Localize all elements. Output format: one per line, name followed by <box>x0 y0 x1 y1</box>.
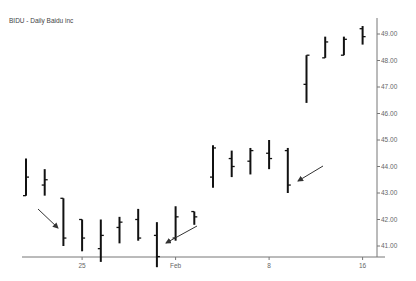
x-tick-label: 16 <box>359 262 367 269</box>
price-bars <box>23 26 366 267</box>
y-tick-label: 46.00 <box>381 110 398 117</box>
arrow-annotation <box>38 209 58 228</box>
arrow-annotation <box>298 166 323 181</box>
y-tick-label: 48.00 <box>381 57 398 64</box>
ohlc-bar <box>285 148 291 193</box>
axes <box>22 18 385 257</box>
y-tick-label: 42.00 <box>381 216 398 223</box>
ohlc-bar <box>173 206 179 240</box>
annotation-arrows <box>38 166 323 243</box>
y-tick-label: 44.00 <box>381 163 398 170</box>
y-tick-label: 43.00 <box>381 189 398 196</box>
ohlc-bar <box>42 169 48 196</box>
ohlc-bar <box>322 37 328 58</box>
arrow-annotation <box>166 226 197 243</box>
ohlc-bar <box>229 151 235 178</box>
y-tick-label: 41.00 <box>381 242 398 249</box>
ohlc-bar <box>23 159 29 196</box>
y-axis-ticks: 41.0042.0043.0044.0045.0046.0047.0048.00… <box>377 30 398 249</box>
ohlc-bar <box>135 209 141 241</box>
y-tick-label: 45.00 <box>381 136 398 143</box>
ohlc-bar <box>79 220 85 252</box>
ohlc-bar <box>60 198 66 246</box>
y-tick-label: 49.00 <box>381 30 398 37</box>
x-axis-ticks: 25Feb816 <box>78 257 366 269</box>
ohlc-bar <box>154 222 160 267</box>
ohlc-chart: 41.0042.0043.0044.0045.0046.0047.0048.00… <box>0 0 416 281</box>
x-tick-label: Feb <box>170 262 182 269</box>
ohlc-bar <box>98 220 104 262</box>
x-tick-label: 8 <box>267 262 271 269</box>
ohlc-bar <box>191 212 197 225</box>
ohlc-bar <box>210 145 216 187</box>
y-tick-label: 47.00 <box>381 83 398 90</box>
ohlc-bar <box>304 55 310 103</box>
ohlc-bar <box>117 217 123 244</box>
ohlc-bar <box>266 140 272 169</box>
ohlc-bar <box>247 148 253 175</box>
ohlc-bar <box>341 37 347 56</box>
ohlc-bar <box>360 26 366 45</box>
x-tick-label: 25 <box>78 262 86 269</box>
